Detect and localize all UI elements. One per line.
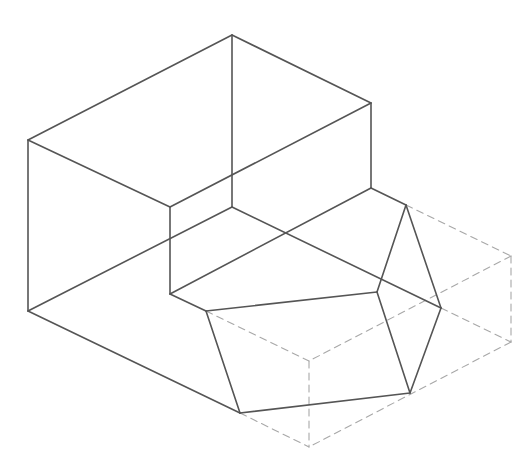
- visible-edge-IK: [377, 205, 406, 292]
- visible-edge-FM: [28, 311, 240, 413]
- visible-edge-JK: [206, 292, 377, 311]
- visible-edge-GH: [170, 188, 371, 294]
- visible-edge-EL: [232, 207, 441, 308]
- visible-edge-MN: [240, 393, 410, 413]
- wireframe-drawing: [0, 0, 529, 462]
- hidden-edge-JR: [206, 311, 309, 361]
- visible-edge-BD: [28, 140, 170, 207]
- hidden-edges-group: [206, 205, 511, 447]
- visible-edge-HJ: [170, 294, 206, 311]
- visible-edge-KN: [377, 292, 410, 393]
- isometric-wireframe-diagram: [0, 0, 529, 462]
- visible-edge-EF: [28, 207, 232, 311]
- visible-edges-group: [28, 35, 441, 413]
- hidden-edge-PR: [309, 256, 511, 361]
- visible-edge-AB: [28, 35, 232, 140]
- visible-edge-AC: [232, 35, 371, 103]
- hidden-edge-IP: [406, 205, 511, 256]
- visible-edge-CD: [170, 103, 371, 207]
- hidden-edge-QS: [309, 342, 511, 447]
- visible-edge-GI: [371, 188, 406, 205]
- visible-edge-IL: [406, 205, 441, 308]
- hidden-edge-MS: [240, 413, 309, 447]
- visible-edge-JM: [206, 311, 240, 413]
- hidden-edge-LQ: [441, 308, 511, 342]
